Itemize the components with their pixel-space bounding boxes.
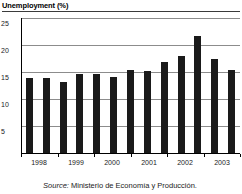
title-divider (2, 11, 240, 12)
source-prefix: Source: (43, 181, 69, 190)
x-axis-tick (21, 154, 22, 157)
x-axis-tick (240, 154, 241, 157)
y-tick-label-10: 10 (1, 101, 18, 108)
x-axis-tick (94, 154, 95, 157)
x-tick-label-2003: 2003 (214, 159, 230, 167)
y-tick-label-25: 25 (1, 20, 18, 27)
x-axis-tick (204, 154, 205, 157)
x-tick-label-1999: 1999 (68, 159, 84, 167)
x-tick-label-2002: 2002 (177, 159, 193, 167)
x-axis-tick (58, 154, 59, 157)
x-tick-label-2000: 2000 (104, 159, 120, 167)
unemployment-bar-chart: Unemployment (%) 510152025 1998199920002… (0, 0, 242, 194)
y-tick-label-5: 5 (1, 128, 18, 135)
x-tick-label-2001: 2001 (141, 159, 157, 167)
x-axis-tick (131, 154, 132, 157)
y-tick-label-15: 15 (1, 74, 18, 81)
x-tick-label-1998: 1998 (31, 159, 47, 167)
source-body: Ministerio de Economía y Producción. (71, 181, 197, 190)
y-tick-label-20: 20 (1, 47, 18, 54)
y-axis-tick-labels: 510152025 (0, 18, 242, 154)
chart-title: Unemployment (%) (2, 1, 68, 10)
x-axis-tick (167, 154, 168, 157)
source-note: Source: Ministerio de Economía y Producc… (0, 181, 240, 190)
